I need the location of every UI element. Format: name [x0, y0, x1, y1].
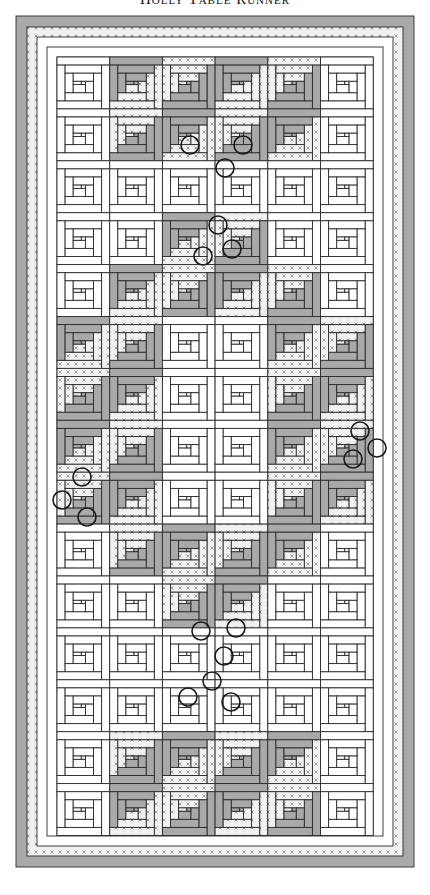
quilt-block-grid — [57, 57, 373, 836]
quilt-block — [162, 732, 215, 784]
quilt-block — [268, 576, 321, 628]
quilt-block — [215, 161, 268, 213]
quilt-block — [215, 265, 268, 317]
quilt-block — [57, 161, 110, 213]
quilt-block — [321, 109, 374, 161]
quilt-block — [321, 265, 374, 317]
quilt-block — [162, 420, 215, 472]
quilt-block — [268, 680, 321, 732]
quilt-block — [162, 109, 215, 161]
quilt-block — [268, 317, 321, 369]
quilt-block — [110, 628, 163, 680]
quilt-block — [268, 524, 321, 576]
quilt-block — [321, 524, 374, 576]
quilt-block — [57, 265, 110, 317]
quilt-block — [57, 109, 110, 161]
quilt-block — [268, 161, 321, 213]
quilt-block — [110, 732, 163, 784]
quilt-block — [110, 524, 163, 576]
quilt-block — [215, 109, 268, 161]
quilt-block — [110, 109, 163, 161]
quilt-block — [268, 628, 321, 680]
quilt-block — [110, 317, 163, 369]
quilt-block — [162, 576, 215, 628]
quilt-block — [268, 213, 321, 265]
quilt-block — [57, 680, 110, 732]
quilt-block — [215, 420, 268, 472]
quilt-block — [57, 524, 110, 576]
quilt-block — [57, 213, 110, 265]
quilt-block — [321, 784, 374, 836]
quilt-block — [321, 628, 374, 680]
quilt-block — [162, 265, 215, 317]
quilt-block — [57, 784, 110, 836]
quilt-block — [162, 57, 215, 109]
quilt-block — [57, 576, 110, 628]
quilt-block — [110, 420, 163, 472]
quilt-block — [321, 576, 374, 628]
quilt-block — [110, 576, 163, 628]
quilt-block — [57, 732, 110, 784]
quilt-block — [110, 784, 163, 836]
quilt-block — [162, 317, 215, 369]
quilt-block — [57, 317, 110, 369]
quilt-block — [57, 368, 110, 420]
quilt-block — [321, 368, 374, 420]
quilt-block — [162, 472, 215, 524]
quilt-block — [321, 317, 374, 369]
quilt-block — [268, 420, 321, 472]
quilt-block — [57, 57, 110, 109]
quilt-block — [321, 213, 374, 265]
quilt-block — [268, 109, 321, 161]
quilt-block — [268, 57, 321, 109]
quilt-diagram — [0, 0, 430, 895]
quilt-block — [321, 161, 374, 213]
quilt-block — [321, 472, 374, 524]
quilt-block — [268, 265, 321, 317]
quilt-block — [162, 368, 215, 420]
quilt-block — [57, 472, 110, 524]
quilt-block — [110, 57, 163, 109]
quilt-block — [162, 524, 215, 576]
quilt-block — [110, 368, 163, 420]
quilt-block — [57, 628, 110, 680]
quilt-block — [215, 57, 268, 109]
quilt-block — [215, 524, 268, 576]
quilt-block — [321, 57, 374, 109]
quilt-block — [162, 213, 215, 265]
quilt-block — [215, 317, 268, 369]
quilt-block — [215, 213, 268, 265]
quilt-block — [162, 784, 215, 836]
quilt-block — [57, 420, 110, 472]
quilt-block — [162, 161, 215, 213]
quilt-block — [215, 732, 268, 784]
quilt-block — [268, 784, 321, 836]
quilt-block — [110, 213, 163, 265]
quilt-block — [321, 420, 374, 472]
quilt-block — [268, 472, 321, 524]
quilt-block — [215, 472, 268, 524]
quilt-block — [321, 732, 374, 784]
quilt-block — [110, 161, 163, 213]
quilt-block — [110, 472, 163, 524]
quilt-block — [268, 732, 321, 784]
quilt-block — [321, 680, 374, 732]
quilt-block — [110, 265, 163, 317]
quilt-block — [215, 784, 268, 836]
quilt-block — [268, 368, 321, 420]
quilt-block — [215, 368, 268, 420]
quilt-block — [162, 628, 215, 680]
quilt-block — [110, 680, 163, 732]
